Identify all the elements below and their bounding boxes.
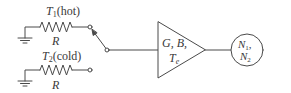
hot-terminal[interactable] — [88, 25, 92, 29]
hot-resistor-icon — [40, 22, 72, 32]
hot-temperature-label: T1(hot) — [46, 4, 80, 19]
switch-pivot — [105, 48, 109, 52]
cold-terminal[interactable] — [88, 68, 92, 72]
switch[interactable] — [92, 30, 109, 53]
amplifier-params-line1: G, B, — [162, 36, 187, 50]
cold-ground-icon — [18, 81, 32, 86]
hot-ground-lead — [25, 27, 40, 38]
hot-resistor-label: R — [51, 34, 60, 48]
cold-ground-lead — [25, 70, 40, 81]
cold-resistor-label: R — [51, 78, 60, 92]
cold-temperature-label: T2(cold) — [42, 49, 81, 64]
hot-ground-icon — [18, 38, 32, 43]
cold-resistor-icon — [40, 65, 72, 75]
noise-measurement-diagram: T1(hot) R T2(cold) R G, B, Te N1, N2 — [0, 0, 291, 93]
amplifier-triangle — [158, 22, 205, 78]
